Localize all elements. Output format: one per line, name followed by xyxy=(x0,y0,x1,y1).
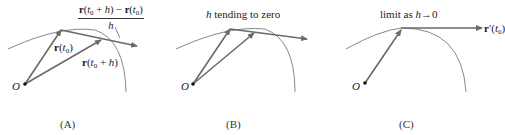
origin-label-a: O xyxy=(12,81,20,92)
caption-c: (C) xyxy=(399,118,414,130)
origin-point xyxy=(191,82,195,86)
panel-b xyxy=(176,28,307,92)
vector-r-t0-h xyxy=(193,33,254,84)
difference-quotient: r(t0 + h) − r(t0) h xyxy=(78,4,144,31)
origin-label-c: O xyxy=(352,81,360,92)
label-r-t0: r(t0) xyxy=(54,42,73,55)
label-r-t0-plus-h: r(t0 + h) xyxy=(82,57,118,70)
label-r-prime-t0: r′(t0) xyxy=(484,23,505,36)
vector-r-t0 xyxy=(365,30,401,83)
origin-point xyxy=(363,81,367,85)
origin-point xyxy=(23,82,27,86)
caption-b: (B) xyxy=(226,118,241,130)
caption-a: (A) xyxy=(60,118,75,130)
title-c: limit as h→0 xyxy=(380,9,437,20)
title-b: h tending to zero xyxy=(206,9,280,20)
fraction-numerator: r(t0 + h) − r(t0) xyxy=(78,4,144,19)
fraction-denominator: h xyxy=(78,19,144,31)
vector-r-t0 xyxy=(25,30,61,84)
panel-c xyxy=(346,28,482,92)
origin-label-b: O xyxy=(181,81,189,92)
vector-r-t0 xyxy=(193,29,230,84)
